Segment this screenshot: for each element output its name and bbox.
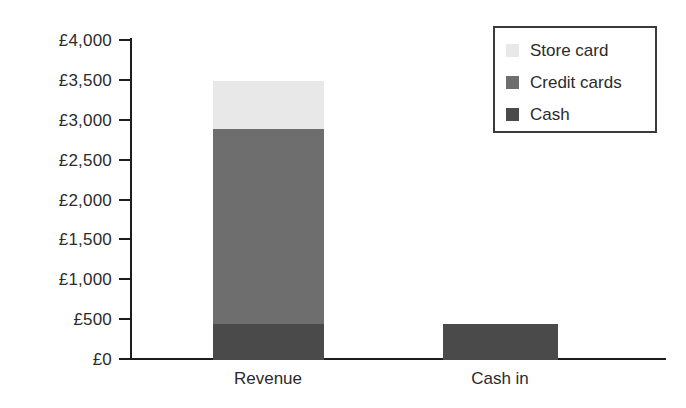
y-axis-tick [119, 79, 131, 81]
y-axis-tick [119, 318, 131, 320]
legend-item[interactable]: Cash [506, 103, 570, 125]
bar-segment-cash[interactable] [213, 324, 324, 360]
bar-chart: £0£500£1,000£1,500£2,000£2,500£3,000£3,5… [0, 0, 686, 408]
y-axis-tick [119, 159, 131, 161]
bar-stack[interactable] [443, 324, 558, 360]
y-axis-tick [119, 238, 131, 240]
y-axis-tick [119, 278, 131, 280]
legend-swatch-icon [506, 108, 519, 121]
y-axis-tick-label: £1,500 [59, 231, 112, 248]
y-axis-tick-label: £1,000 [59, 271, 112, 288]
bar-segment-store-card[interactable] [213, 81, 324, 129]
bar-segment-credit-cards[interactable] [213, 129, 324, 324]
bar-segment-cash[interactable] [443, 324, 558, 360]
legend-item[interactable]: Credit cards [506, 71, 622, 93]
legend-label: Store card [530, 42, 608, 59]
y-axis-tick-label: £3,000 [59, 111, 112, 128]
x-axis-line [130, 358, 666, 360]
legend-label: Cash [530, 106, 570, 123]
y-axis-tick-label: £0 [93, 351, 112, 368]
y-axis-tick-label: £4,000 [59, 32, 112, 49]
y-axis-tick [119, 358, 131, 360]
bar-stack[interactable] [213, 81, 324, 360]
y-axis-tick [119, 39, 131, 41]
x-axis-label: Cash in [471, 370, 529, 387]
y-axis-tick-label: £500 [73, 311, 112, 328]
plot-area: £0£500£1,000£1,500£2,000£2,500£3,000£3,5… [0, 0, 686, 408]
legend-swatch-icon [506, 44, 519, 57]
y-axis-tick [119, 119, 131, 121]
y-axis-tick-label: £2,500 [59, 151, 112, 168]
y-axis-tick [119, 199, 131, 201]
y-axis-tick-label: £3,500 [59, 71, 112, 88]
legend-label: Credit cards [530, 74, 622, 91]
legend: Store cardCredit cardsCash [493, 26, 657, 133]
legend-swatch-icon [506, 76, 519, 89]
x-axis-label: Revenue [234, 370, 302, 387]
y-axis-tick-label: £2,000 [59, 191, 112, 208]
legend-item[interactable]: Store card [506, 39, 608, 61]
